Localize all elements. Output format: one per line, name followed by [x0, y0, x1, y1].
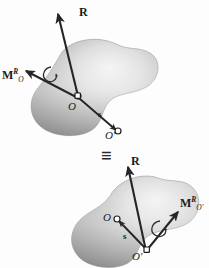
- upper-body-highlight: [31, 39, 158, 135]
- upper-point-Oprime-marker: [115, 128, 121, 134]
- lower-couple-moment-subscript: O': [196, 203, 203, 212]
- lower-point-Oprime-marker: [144, 247, 149, 252]
- upper-position-vector-label: s: [98, 110, 102, 119]
- lower-couple-moment-letter: M: [180, 196, 191, 210]
- lower-couple-moment-label: MRO': [180, 196, 203, 212]
- upper-origin-label: O: [68, 101, 76, 112]
- upper-couple-moment-subscript: O: [18, 75, 23, 84]
- lower-origin-label: O: [103, 212, 111, 223]
- lower-point-O-marker: [114, 216, 120, 222]
- lower-resultant-force-label: R: [131, 155, 140, 167]
- figure-root: R MRO O s O' ≡ R MRO' O s O': [0, 0, 209, 268]
- upper-point-O-square-marker: [75, 93, 80, 98]
- upper-couple-moment-label: MRO: [2, 68, 24, 84]
- upper-couple-moment-letter: M: [2, 68, 13, 82]
- upper-second-point-label: O': [105, 130, 115, 141]
- lower-second-point-label: O': [132, 251, 142, 262]
- equivalence-symbol: ≡: [101, 145, 112, 167]
- lower-position-vector-label: s: [123, 232, 127, 241]
- upper-resultant-force-label: R: [79, 6, 88, 18]
- upper-rigid-body: [31, 39, 158, 135]
